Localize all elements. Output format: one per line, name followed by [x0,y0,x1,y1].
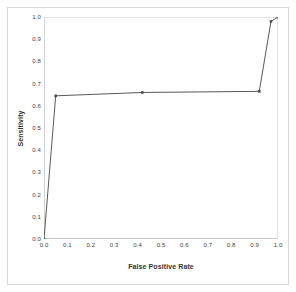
x-tick-label: 0.8 [227,242,236,248]
y-tick-label: 0.0 [24,236,41,242]
y-tick-label: 0.8 [24,58,41,64]
y-axis-title-wrapper: Sensitivity [14,17,26,239]
x-tick-label: 0.2 [86,242,95,248]
x-tick-label: 0.7 [203,242,212,248]
y-tick-label: 0.9 [24,36,41,42]
y-tick-label: 0.6 [24,103,41,109]
x-tick-label: 1.0 [274,242,283,248]
y-axis-title: Sensitivity [17,110,24,146]
data-point-marker [141,91,144,94]
data-point-marker [44,238,45,239]
roc-curve-line [44,17,278,239]
x-tick-label: 0.9 [250,242,259,248]
y-tick-label: 0.2 [24,192,41,198]
x-tick-label: 0.0 [40,242,49,248]
x-axis-title: False Positive Rate [44,263,278,270]
data-point-marker [277,17,278,18]
y-tick-label: 0.1 [24,214,41,220]
data-point-marker [258,90,261,93]
x-axis-tick-labels: 0.00.10.20.30.40.50.60.70.80.91.0 [44,242,278,254]
data-point-marker [54,95,57,98]
y-tick-label: 0.7 [24,81,41,87]
x-tick-label: 0.1 [63,242,72,248]
y-axis-tick-labels: 0.00.10.20.30.40.50.60.70.80.91.0 [24,17,41,239]
y-tick-label: 0.3 [24,169,41,175]
x-tick-label: 0.6 [180,242,189,248]
roc-curve-plot [44,17,278,239]
roc-chart-figure: 0.00.10.20.30.40.50.60.70.80.91.0 0.00.1… [0,0,296,292]
y-tick-label: 0.4 [24,147,41,153]
x-tick-label: 0.5 [157,242,166,248]
y-tick-label: 0.5 [24,125,41,131]
x-tick-label: 0.3 [110,242,119,248]
data-point-marker [270,20,273,23]
y-tick-label: 1.0 [24,14,41,20]
x-tick-label: 0.4 [133,242,142,248]
